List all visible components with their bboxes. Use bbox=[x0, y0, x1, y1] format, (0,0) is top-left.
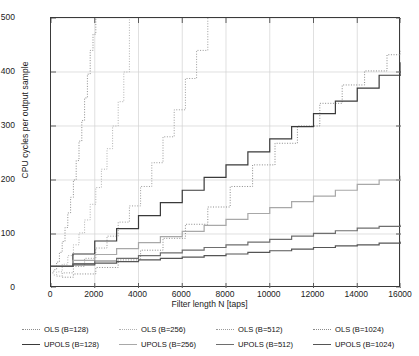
legend-swatch-solid-icon bbox=[22, 344, 40, 345]
legend-swatch-solid-icon bbox=[119, 344, 137, 345]
legend-item-ols-b-256[interactable]: OLS (B=256) bbox=[119, 325, 216, 334]
y-tick-100: 100 bbox=[0, 228, 15, 238]
series-line-3 bbox=[62, 50, 401, 277]
legend-item-upols-b-256[interactable]: UPOLS (B=256) bbox=[119, 340, 216, 349]
x-tick-16000: 16000 bbox=[370, 289, 419, 299]
legend-swatch-dotted-icon bbox=[313, 329, 331, 330]
legend-item-upols-b-1024[interactable]: UPOLS (B=1024) bbox=[313, 340, 410, 349]
legend-label: UPOLS (B=256) bbox=[141, 340, 196, 349]
series-line-0 bbox=[52, 18, 95, 273]
legend-swatch-dotted-icon bbox=[119, 329, 137, 330]
legend-label: OLS (B=1024) bbox=[335, 325, 384, 334]
legend-item-upols-b-512[interactable]: UPOLS (B=512) bbox=[216, 340, 313, 349]
legend-item-ols-b-512[interactable]: OLS (B=512) bbox=[216, 325, 313, 334]
chart-legend: OLS (B=128)OLS (B=256)OLS (B=512)OLS (B=… bbox=[22, 322, 410, 352]
legend-swatch-solid-icon bbox=[313, 344, 331, 345]
y-axis-label: CPU cycles per output sample bbox=[20, 35, 30, 205]
x-axis-label: Filter length N [taps] bbox=[0, 299, 419, 309]
y-tick-200: 200 bbox=[0, 174, 15, 184]
chart-figure: CPU cycles per output sample Filter leng… bbox=[0, 0, 419, 356]
legend-swatch-solid-icon bbox=[216, 344, 234, 345]
legend-label: UPOLS (B=128) bbox=[44, 340, 99, 349]
y-tick-300: 300 bbox=[0, 120, 15, 130]
legend-label: OLS (B=512) bbox=[238, 325, 283, 334]
y-tick-400: 400 bbox=[0, 66, 15, 76]
y-tick-500: 500 bbox=[0, 12, 15, 22]
plot-area bbox=[50, 17, 400, 287]
y-tick-0: 0 bbox=[0, 282, 15, 292]
plot-canvas bbox=[51, 18, 401, 288]
legend-label: OLS (B=128) bbox=[44, 325, 89, 334]
legend-item-ols-b-1024[interactable]: OLS (B=1024) bbox=[313, 325, 410, 334]
legend-label: OLS (B=256) bbox=[141, 325, 186, 334]
legend-label: UPOLS (B=512) bbox=[238, 340, 293, 349]
legend-label: UPOLS (B=1024) bbox=[335, 340, 394, 349]
legend-item-ols-b-128[interactable]: OLS (B=128) bbox=[22, 325, 119, 334]
legend-item-upols-b-128[interactable]: UPOLS (B=128) bbox=[22, 340, 119, 349]
legend-swatch-dotted-icon bbox=[216, 329, 234, 330]
legend-swatch-dotted-icon bbox=[22, 329, 40, 330]
